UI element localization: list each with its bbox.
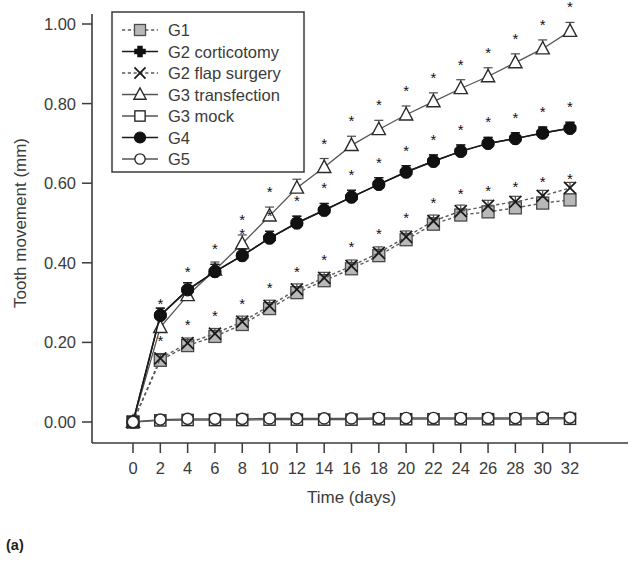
x-tick-label: 0 [128,459,137,477]
marker-circle-open [127,416,138,427]
series-path [133,200,570,422]
x-tick-label: 12 [288,459,306,477]
marker-circle-open [482,412,493,423]
legend-label: G3 mock [168,107,235,125]
marker-circle-filled [509,133,521,145]
y-tick-label: 0.60 [44,174,76,192]
significance-star: * [267,279,273,296]
marker-circle-open [346,413,357,424]
legend-label: G2 corticotomy [168,43,280,61]
significance-star: * [458,185,464,202]
marker-triangle-open [509,55,522,67]
marker-triangle-open [372,122,385,134]
x-tick-label: 2 [156,459,165,477]
x-tick-label: 6 [210,459,219,477]
x-tick-label: 20 [397,459,415,477]
marker-circle-filled [373,178,385,190]
significance-star: * [267,183,273,200]
marker-triangle-open [400,108,413,120]
significance-star: * [321,135,327,152]
marker-circle-open [455,412,466,423]
significance-star: * [403,142,409,159]
x-tick-label: 10 [260,459,278,477]
legend-label: G1 [168,21,190,39]
marker-circle-filled [264,232,276,244]
marker-circle-open [319,413,330,424]
significance-star: * [485,113,491,130]
significance-star: * [349,166,355,183]
x-tick-label: 22 [424,459,442,477]
series-path [133,188,570,422]
marker-triangle-open [563,24,576,36]
significance-star: * [431,131,437,148]
marker-square-gray [134,24,145,35]
marker-circle-open [510,412,521,423]
x-axis-title: Time (days) [307,488,396,507]
significance-star: * [512,178,518,195]
marker-square-open [135,111,145,121]
significance-star: * [512,30,518,47]
marker-circle-open [182,413,193,424]
significance-star: * [540,173,546,190]
x-tick-label: 8 [238,459,247,477]
significance-star: * [185,316,191,333]
y-tick-label: 0.40 [44,254,76,272]
marker-circle-filled [134,132,145,143]
y-tick-label: 0.80 [44,95,76,113]
marker-circle-filled [291,217,303,229]
significance-star: * [376,225,382,242]
series-g2-flap-surgery [127,182,576,428]
marker-triangle-open [318,160,331,172]
significance-star: * [485,182,491,199]
marker-circle-open [428,412,439,423]
significance-star: * [403,209,409,226]
x-tick-label: 16 [342,459,360,477]
marker-circle-filled [564,122,576,134]
marker-square-gray [482,206,494,218]
significance-star: * [567,98,573,115]
x-tick-label: 14 [315,459,333,477]
x-tick-label: 28 [506,459,524,477]
significance-star: * [376,154,382,171]
significance-star: * [294,192,300,209]
y-axis-title: Tooth movement (mm) [11,138,30,308]
significance-star: * [512,109,518,126]
marker-circle-open [264,413,275,424]
significance-star: * [157,295,163,312]
x-tick-label: 30 [534,459,552,477]
legend-label: G2 flap surgery [168,64,282,82]
legend: G1G2 corticotomyG2 flap surgeryG3 transf… [112,12,304,172]
legend-label: G4 [168,129,190,147]
marker-circle-filled [318,204,330,216]
marker-triangle-open [481,69,494,81]
significance-star: * [540,16,546,33]
x-tick-label: 26 [479,459,497,477]
marker-circle-filled [427,155,439,167]
marker-square-gray [564,194,576,206]
significance-star: * [321,179,327,196]
x-tick-label: 18 [370,459,388,477]
marker-triangle-open [536,41,549,53]
significance-star: * [349,112,355,129]
significance-star: * [157,332,163,349]
figure-panel-a: 0.000.200.400.600.801.000246810121416182… [0,0,632,570]
marker-circle-open [401,412,412,423]
significance-star: * [403,82,409,99]
marker-triangle-open [427,94,440,106]
significance-star: * [267,207,273,224]
significance-star: * [540,103,546,120]
marker-circle-filled [346,191,358,203]
significance-star: * [349,238,355,255]
x-tick-label: 4 [183,459,192,477]
marker-circle-open [291,413,302,424]
significance-star: * [321,251,327,268]
significance-star: * [567,0,573,15]
x-tick-label: 24 [452,459,470,477]
marker-circle-filled [400,166,412,178]
y-tick-label: 0.20 [44,333,76,351]
y-tick-label: 1.00 [44,15,76,33]
marker-triangle-open [454,81,467,93]
significance-star: * [431,69,437,86]
marker-triangle-open [345,138,358,150]
significance-star: * [567,170,573,187]
